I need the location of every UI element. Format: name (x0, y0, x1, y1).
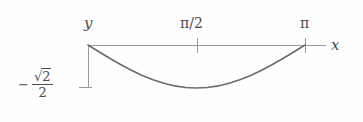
tick-label-pi: π (300, 16, 309, 30)
radicand: 2 (41, 68, 51, 84)
math-figure: y x π/2 π − √2 2 (0, 0, 363, 122)
tick-label-pi-half: π/2 (180, 16, 203, 30)
curve-negative-sine (88, 45, 305, 88)
fraction-numerator: √2 (32, 70, 54, 84)
fraction: √2 2 (32, 70, 54, 99)
minus-sign: − (18, 78, 29, 91)
square-root-icon: √2 (34, 70, 52, 83)
tick-label-minus-sqrt2-over-2: − √2 2 (18, 70, 53, 99)
y-axis-label: y (84, 16, 92, 31)
x-axis-label: x (331, 38, 339, 53)
fraction-denominator: 2 (37, 85, 49, 99)
